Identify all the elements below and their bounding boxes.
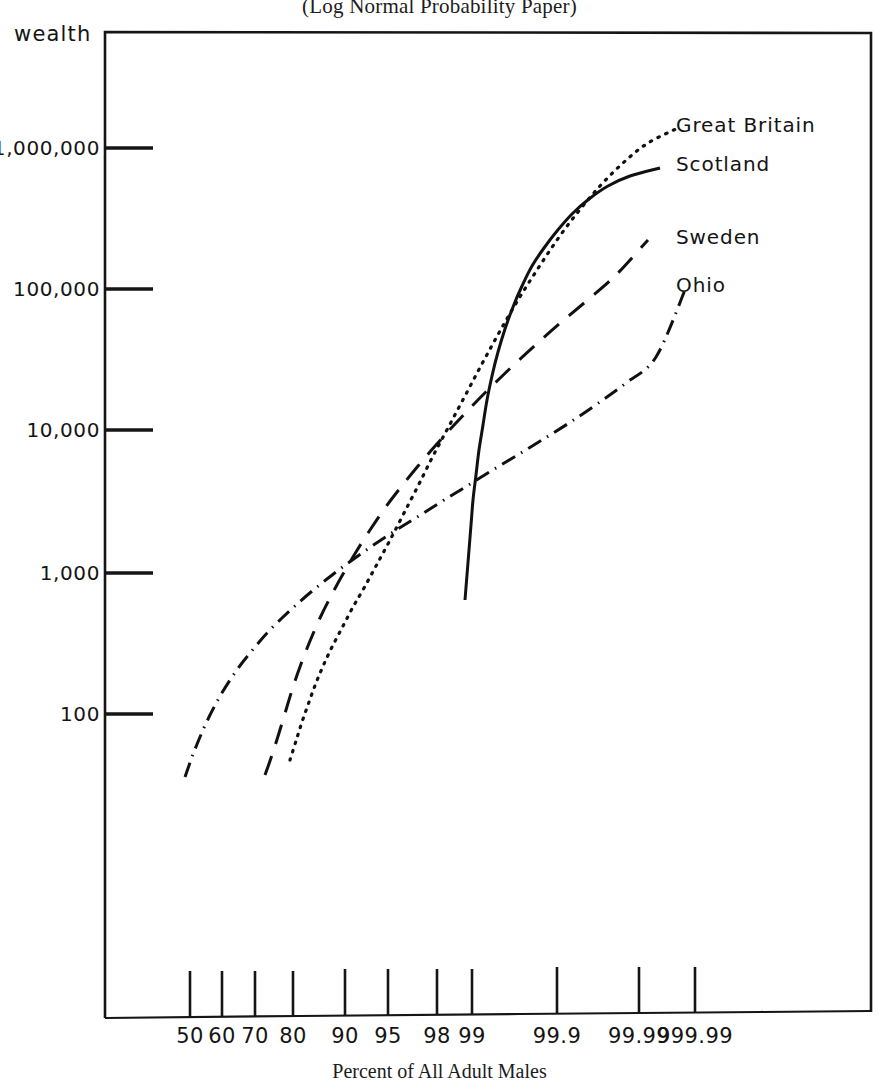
x-tick-label: 999.99 bbox=[657, 1024, 733, 1048]
x-tick-label: 50 bbox=[176, 1024, 204, 1048]
x-tick-label: 60 bbox=[208, 1024, 236, 1048]
axis-frame bbox=[105, 32, 871, 1018]
x-tick-label: 99 bbox=[458, 1024, 486, 1048]
y-axis-title: wealth bbox=[14, 22, 92, 46]
x-tick-label: 98 bbox=[423, 1024, 451, 1048]
series-label-great-britain: Great Britain bbox=[676, 113, 816, 137]
series-label-sweden: Sweden bbox=[676, 225, 760, 249]
data-series-group bbox=[185, 128, 685, 777]
x-axis-ticks bbox=[190, 967, 695, 1017]
series-label-scotland: Scotland bbox=[676, 152, 770, 176]
x-tick-label: 80 bbox=[279, 1024, 307, 1048]
x-axis-baseline bbox=[105, 1011, 871, 1018]
y-tick-label: 10,000 bbox=[26, 418, 100, 442]
y-tick-label: 100 bbox=[60, 702, 100, 726]
y-tick-label: 100,000 bbox=[13, 277, 100, 301]
series-curve-ohio bbox=[185, 290, 685, 777]
axis-frame-path bbox=[105, 32, 871, 1018]
x-tick-label: 99.9 bbox=[533, 1024, 581, 1048]
series-label-ohio: Ohio bbox=[676, 273, 726, 297]
x-tick-label: 70 bbox=[241, 1024, 269, 1048]
y-tick-label: 1,000,000 bbox=[0, 136, 100, 160]
x-tick-label: 95 bbox=[374, 1024, 402, 1048]
chart-figure: (Log Normal Probability Paper) wealth 1,… bbox=[0, 0, 879, 1088]
x-tick-label: 90 bbox=[331, 1024, 359, 1048]
series-curve-great-britain bbox=[290, 128, 678, 760]
series-curve-sweden bbox=[265, 240, 648, 775]
x-axis-title: Percent of All Adult Males bbox=[0, 1060, 879, 1083]
chart-title: (Log Normal Probability Paper) bbox=[0, 0, 879, 19]
y-tick-label: 1,000 bbox=[40, 561, 100, 585]
y-axis-ticks bbox=[105, 148, 153, 714]
